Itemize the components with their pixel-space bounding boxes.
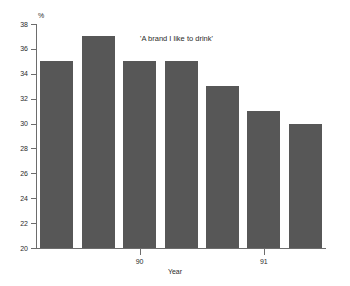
y-tick-label: 26 <box>0 170 28 177</box>
x-tick-label: 90 <box>125 258 155 266</box>
bar-chart: % 20222426283032343638 9091 'A brand I l… <box>0 0 350 286</box>
bar <box>123 61 156 248</box>
bar <box>40 61 73 248</box>
bar <box>289 124 322 248</box>
x-tick <box>140 249 141 255</box>
bar <box>82 36 115 248</box>
x-axis-line <box>36 248 326 249</box>
y-tick-label: 36 <box>0 45 28 52</box>
y-tick-label: 30 <box>0 120 28 127</box>
y-axis-unit-label: % <box>38 12 44 19</box>
y-tick-label: 34 <box>0 70 28 77</box>
y-tick-label: 22 <box>0 220 28 227</box>
y-tick <box>31 248 36 249</box>
chart-title: 'A brand I like to drink' <box>140 34 213 43</box>
y-tick-label: 38 <box>0 21 28 28</box>
bar <box>247 111 280 248</box>
y-tick-label: 32 <box>0 95 28 102</box>
x-axis-title: Year <box>0 268 350 276</box>
plot-area <box>36 24 326 248</box>
x-tick-label: 91 <box>249 258 279 266</box>
y-tick-label: 28 <box>0 145 28 152</box>
y-tick-label: 20 <box>0 245 28 252</box>
bar <box>206 86 239 248</box>
bar <box>165 61 198 248</box>
y-tick-label: 24 <box>0 195 28 202</box>
x-tick <box>264 249 265 255</box>
